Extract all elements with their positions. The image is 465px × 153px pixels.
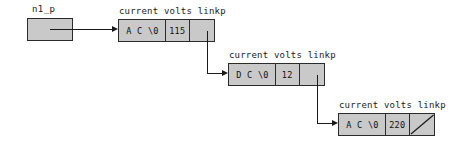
node1-struct-box: A C \0 115 <box>118 19 215 42</box>
node3-struct-box: A C \0 220 <box>338 113 435 136</box>
node2-struct-box: D C \0 12 <box>228 63 325 86</box>
node1-to-node2-vertical-line <box>207 31 208 73</box>
node2-current-cell: D C \0 <box>229 64 276 85</box>
node1-linkp-cell <box>190 20 214 41</box>
node3-current-cell: A C \0 <box>339 114 386 135</box>
node2-field-header: current volts linkp <box>229 50 336 60</box>
node2-linkp-cell <box>300 64 324 85</box>
node1-volts-cell: 115 <box>166 20 190 41</box>
null-pointer-slash-icon <box>410 114 434 135</box>
node2-to-node3-vertical-line <box>317 75 318 123</box>
node3-linkp-cell <box>410 114 434 135</box>
linked-list-diagram: n1_p current volts linkp A C \0 115 curr… <box>0 0 465 153</box>
pointer-to-node1-line <box>50 29 113 30</box>
node1-current-cell: A C \0 <box>119 20 166 41</box>
node2-volts-cell: 12 <box>276 64 300 85</box>
pointer-variable-label: n1_p <box>32 4 55 14</box>
node1-field-header: current volts linkp <box>119 6 226 16</box>
node3-volts-cell: 220 <box>386 114 410 135</box>
node3-field-header: current volts linkp <box>339 100 446 110</box>
